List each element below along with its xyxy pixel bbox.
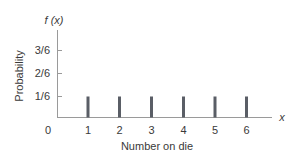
y-axis-label: Probability: [13, 50, 25, 102]
x-tick-label-4: 4: [180, 124, 186, 136]
y-tick-label-1: 1/6: [35, 90, 50, 102]
chart-svg: f (x) 1/6 2/6 3/6 Probability x 0 1 2 3 …: [0, 0, 299, 162]
y-axis-symbol: f (x): [45, 14, 64, 26]
bar-4: [182, 97, 185, 118]
x-tick-label-3: 3: [148, 124, 154, 136]
bar-2: [118, 97, 121, 118]
x-tick-label-2: 2: [116, 124, 122, 136]
probability-distribution-chart: f (x) 1/6 2/6 3/6 Probability x 0 1 2 3 …: [0, 0, 299, 162]
y-tick-label-3: 3/6: [35, 44, 50, 56]
bar-6: [245, 97, 248, 118]
bar-1: [87, 97, 90, 118]
bar-3: [150, 97, 153, 118]
x-tick-label-6: 6: [243, 124, 249, 136]
y-tick-label-2: 2/6: [35, 67, 50, 79]
x-tick-label-0: 0: [45, 124, 51, 136]
x-axis-symbol: x: [278, 111, 285, 123]
x-tick-label-1: 1: [85, 124, 91, 136]
x-axis-label: Number on die: [121, 140, 193, 152]
bar-5: [214, 97, 217, 118]
x-tick-label-5: 5: [212, 124, 218, 136]
